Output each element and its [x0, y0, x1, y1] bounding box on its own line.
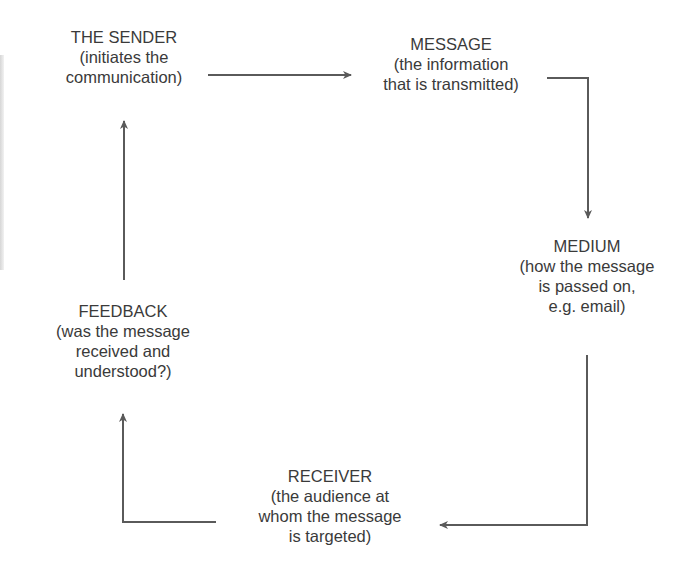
node-desc-line: received and [38, 341, 208, 361]
node-title: THE SENDER [44, 27, 204, 47]
node-title: FEEDBACK [38, 301, 208, 321]
node-message: MESSAGE (the information that is transmi… [361, 34, 541, 94]
arrow-receiver-to-feedback [123, 414, 216, 522]
node-title: MESSAGE [361, 34, 541, 54]
node-desc-line: (the audience at [240, 486, 420, 506]
node-receiver: RECEIVER (the audience at whom the messa… [240, 466, 420, 546]
node-feedback: FEEDBACK (was the message received and u… [38, 301, 208, 381]
node-desc-line: is passed on, [502, 276, 672, 296]
node-desc-line: (the information [361, 54, 541, 74]
node-desc-line: (how the message [502, 256, 672, 276]
node-desc-line: is targeted) [240, 526, 420, 546]
node-sender: THE SENDER (initiates the communication) [44, 27, 204, 87]
node-desc-line: whom the message [240, 506, 420, 526]
node-desc-line: understood?) [38, 361, 208, 381]
node-desc-line: e.g. email) [502, 296, 672, 316]
node-desc-line: (initiates the [44, 47, 204, 67]
node-desc-line: communication) [44, 67, 204, 87]
node-medium: MEDIUM (how the message is passed on, e.… [502, 236, 672, 316]
node-desc-line: that is transmitted) [361, 74, 541, 94]
node-desc-line: (was the message [38, 321, 208, 341]
node-title: MEDIUM [502, 236, 672, 256]
arrow-medium-to-receiver [440, 355, 587, 525]
node-title: RECEIVER [240, 466, 420, 486]
arrow-message-to-medium [547, 78, 588, 218]
